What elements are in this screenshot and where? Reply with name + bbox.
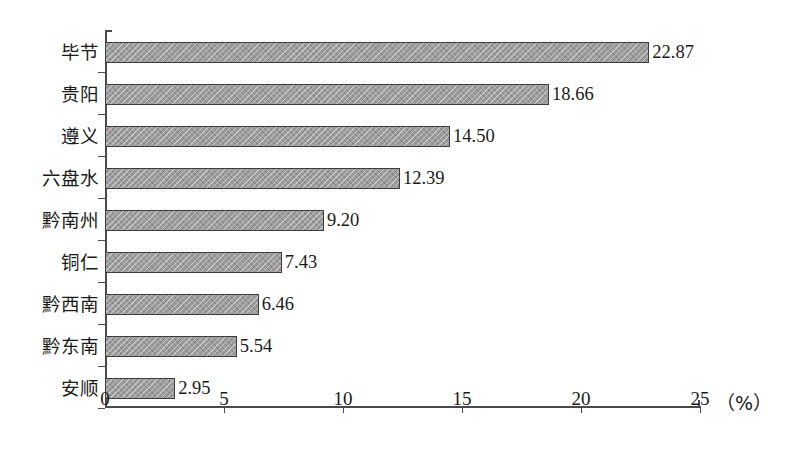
- bar-value-label: 2.95: [175, 378, 210, 399]
- y-axis-tick: [98, 324, 105, 325]
- y-axis-tick: [98, 198, 105, 199]
- x-axis-tick-label: 15: [453, 388, 472, 410]
- bar-chart-figure: 毕节贵阳遵义六盘水黔南州铜仁黔西南黔东南安顺 22.8718.6614.5012…: [0, 0, 791, 465]
- bar: [105, 294, 259, 315]
- x-axis-tick-label: 10: [334, 388, 353, 410]
- category-label: 铜仁: [61, 242, 99, 284]
- bar: [105, 378, 175, 399]
- y-axis-tick: [98, 366, 105, 367]
- y-axis-top-cap: [105, 30, 112, 32]
- x-axis-tick-label: 0: [100, 388, 110, 410]
- category-label: 贵阳: [61, 74, 99, 116]
- bar: [105, 252, 282, 273]
- category-label: 黔西南: [42, 284, 99, 326]
- category-label: 安顺: [61, 368, 99, 410]
- bar: [105, 42, 649, 63]
- bar: [105, 126, 450, 147]
- plot-area: 22.8718.6614.5012.399.207.436.465.542.95: [105, 30, 700, 408]
- bar-value-label: 6.46: [259, 294, 294, 315]
- x-axis-tick-label: 25: [691, 388, 710, 410]
- y-axis-tick: [98, 156, 105, 157]
- bar-value-label: 14.50: [450, 126, 495, 147]
- category-label: 毕节: [61, 32, 99, 74]
- bar-value-label: 9.20: [324, 210, 359, 231]
- category-label: 六盘水: [42, 158, 99, 200]
- bar-value-label: 22.87: [649, 42, 694, 63]
- category-label: 黔东南: [42, 326, 99, 368]
- x-axis-tick-label: 20: [572, 388, 591, 410]
- bar: [105, 336, 237, 357]
- bar-value-label: 18.66: [549, 84, 594, 105]
- category-axis-labels: 毕节贵阳遵义六盘水黔南州铜仁黔西南黔东南安顺: [0, 30, 99, 408]
- bar: [105, 84, 549, 105]
- x-axis-tick-label: 5: [219, 388, 229, 410]
- bar: [105, 168, 400, 189]
- bar-value-label: 5.54: [237, 336, 272, 357]
- y-axis-tick: [98, 72, 105, 73]
- category-label: 黔南州: [42, 200, 99, 242]
- x-axis-line: [105, 406, 700, 408]
- bar-value-label: 7.43: [282, 252, 317, 273]
- y-axis-tick: [98, 114, 105, 115]
- category-label: 遵义: [61, 116, 99, 158]
- y-axis-tick: [98, 282, 105, 283]
- bar: [105, 210, 324, 231]
- x-axis-unit-label: （%）: [716, 388, 772, 415]
- y-axis-tick: [98, 240, 105, 241]
- bar-value-label: 12.39: [400, 168, 445, 189]
